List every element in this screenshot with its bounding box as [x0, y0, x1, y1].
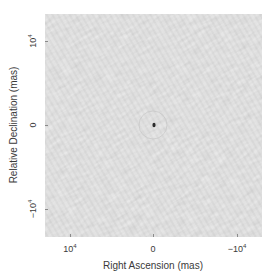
x-tick-mark: [70, 234, 71, 237]
x-tick-label: −104: [228, 243, 247, 254]
y-axis-label: Relative Declination (mas): [9, 67, 19, 184]
y-tick-label: 0: [27, 122, 38, 127]
y-tick-label: 104: [27, 34, 38, 47]
x-tick-label: 0: [150, 243, 155, 254]
x-axis-label: Right Ascension (mas): [103, 261, 203, 271]
y-tick-mark: [45, 209, 48, 210]
y-tick-label: −104: [27, 200, 38, 219]
point-source-marker: [152, 123, 155, 127]
image-plot-area: [45, 14, 262, 237]
x-tick-mark: [237, 234, 238, 237]
fringe-image: [45, 14, 262, 237]
y-tick-mark: [45, 125, 48, 126]
y-tick-mark: [45, 41, 48, 42]
x-tick-mark: [153, 234, 154, 237]
figure: 104 0 −104 104 0 −104 Right Ascension (m…: [0, 0, 274, 280]
x-tick-label: 104: [63, 243, 76, 254]
